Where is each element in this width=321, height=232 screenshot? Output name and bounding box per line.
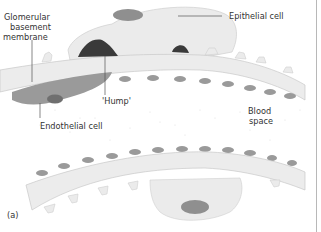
label-epithelial-cell: Epithelial cell: [229, 11, 284, 21]
label-hump: 'Hump': [102, 96, 131, 106]
label-blood-space-2: space: [249, 116, 273, 126]
figure-border-line: [316, 0, 317, 232]
label-glomerular-basement-membrane-3: membrane: [3, 32, 48, 42]
label-blood-space-1: Blood: [248, 106, 271, 116]
epithelial-nucleus: [113, 9, 143, 21]
label-glomerular-basement-membrane-2: basement: [10, 22, 52, 32]
label-endothelial-cell: Endothelial cell: [40, 121, 103, 131]
panel-label: (a): [7, 210, 18, 220]
epithelial-nucleus-bottom: [181, 200, 209, 214]
glomerulus-diagram: Glomerular basement membrane Epithelial …: [0, 0, 321, 232]
endothelial-nucleus: [47, 95, 63, 104]
label-glomerular-basement-membrane-1: Glomerular: [4, 12, 50, 22]
